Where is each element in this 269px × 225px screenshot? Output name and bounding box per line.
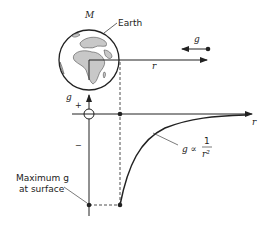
max-g-label-line2: at surface (19, 184, 65, 194)
max-g-label-line1: Maximum g (16, 173, 69, 183)
max-g-leader-line (64, 187, 87, 203)
relation-denominator: r² (202, 149, 210, 159)
surface-radius-dot (118, 112, 123, 117)
plus-sign: + (75, 101, 82, 110)
relation-leader-line (153, 133, 178, 145)
relation-numerator: 1 (204, 136, 210, 146)
test-mass-dot (206, 47, 211, 52)
r-axis-label: r (252, 117, 257, 127)
relation-lhs: g ∝ (182, 144, 197, 154)
inverse-square-curve (120, 115, 245, 205)
g-vector-label: g (194, 34, 200, 44)
earth-label: Earth (118, 18, 142, 28)
earth-leader-line (104, 23, 117, 33)
gravity-diagram: M Earth r g g r + − g ∝ 1 r² Maximum g a… (0, 0, 269, 225)
g-axis-label: g (66, 92, 72, 102)
mass-label: M (84, 10, 95, 20)
r-vector-label: r (152, 61, 157, 71)
minus-sign: − (75, 141, 82, 150)
